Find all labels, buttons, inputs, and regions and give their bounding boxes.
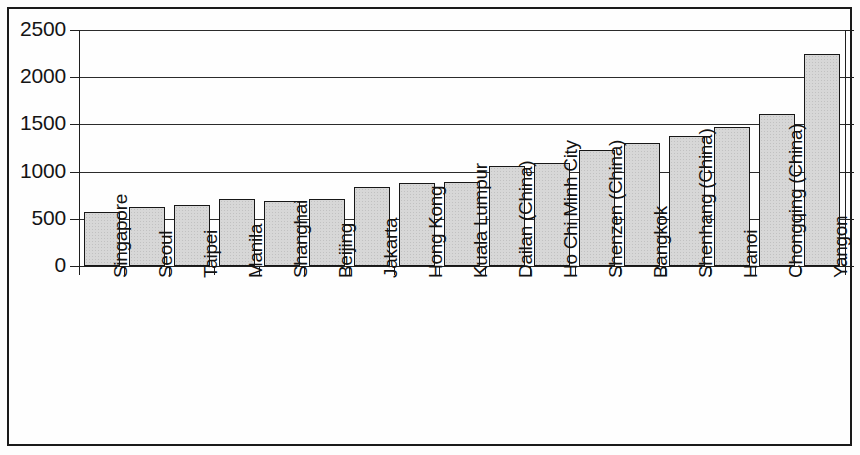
x-axis-tick-label: Hong Kong [425, 186, 447, 278]
y-axis-tick-mark-right [845, 77, 854, 78]
y-axis-tick-mark-right [845, 124, 854, 125]
x-axis-tick-label: Shenzen (China) [605, 140, 627, 278]
x-axis-tick-label: Shanghai [290, 200, 312, 278]
x-axis-tick-label: Taipei [200, 230, 222, 278]
y-axis-tick-label: 2000 [20, 64, 66, 88]
x-axis-tick-label: Seoul [155, 231, 177, 278]
x-axis-tick-label: Yangon [830, 216, 852, 278]
x-axis-tick-label: Ho Chi Minh City [560, 140, 582, 278]
y-axis-line [79, 30, 80, 266]
y-axis-tick-label: 500 [32, 206, 66, 230]
y-axis-tick-label: 1000 [20, 159, 66, 183]
y-axis-tick-label: 0 [55, 253, 66, 277]
gridline [79, 124, 845, 125]
y-axis-tick-mark [70, 124, 79, 125]
x-axis-tick-label: Shenhang (China) [695, 129, 717, 278]
x-axis-tick-label: Chongqing (China) [785, 124, 807, 278]
x-axis-tick-label: Kuala Lumpur [470, 163, 492, 278]
y-axis-tick-mark-right [845, 30, 854, 31]
x-axis-tick-label: Hanoi [740, 230, 762, 278]
x-axis-tick-label: Singapore [110, 194, 132, 278]
y-axis-tick-mark [70, 30, 79, 31]
x-axis-tick-label: Jakarta [380, 218, 402, 278]
y-axis-tick-label: 1500 [20, 111, 66, 135]
x-axis-tick-label: Dailan (China) [515, 161, 537, 278]
gridline [79, 30, 845, 31]
x-axis-tick-label: Bangkok [650, 206, 672, 278]
x-axis-tick-mark [79, 266, 80, 275]
gridline [79, 77, 845, 78]
chart-figure: 05001000150020002500 SingaporeSeoulTaipe… [0, 0, 860, 455]
y-axis-tick-mark [70, 266, 79, 267]
y-axis-tick-label: 2500 [20, 17, 66, 41]
y-axis-tick-mark [70, 77, 79, 78]
y-axis-tick-mark [70, 172, 79, 173]
y-axis-tick-mark-right [845, 172, 854, 173]
x-axis-tick-label: Beijing [335, 223, 357, 278]
x-axis-tick-label: Manila [245, 224, 267, 278]
y-axis-tick-mark [70, 219, 79, 220]
x-axis-line [79, 266, 845, 267]
